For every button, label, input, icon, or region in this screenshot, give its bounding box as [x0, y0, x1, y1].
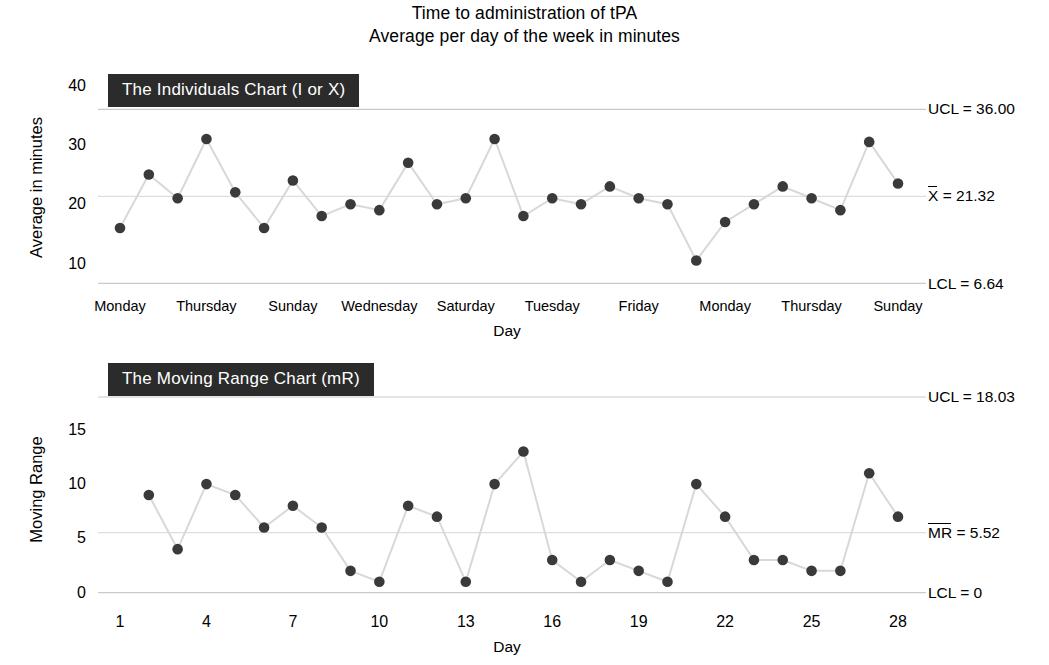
data-point	[259, 522, 270, 533]
control-limit-label-cl: X = 21.32	[928, 187, 995, 205]
x-tick-label: 4	[202, 613, 211, 631]
data-point	[605, 555, 616, 566]
data-point	[547, 555, 558, 566]
data-point	[893, 178, 904, 189]
series-line	[120, 139, 898, 261]
title-line-1: Time to administration of tPA	[0, 2, 1049, 25]
individuals-chart-nameplate: The Individuals Chart (I or X)	[108, 74, 359, 107]
data-point	[403, 157, 414, 168]
data-point	[403, 500, 414, 511]
data-point	[230, 490, 241, 501]
x-tick-label: 13	[457, 613, 475, 631]
chart-page: Time to administration of tPA Average pe…	[0, 0, 1049, 665]
moving-range-series-svg	[98, 380, 916, 605]
x-axis-title-individuals: Day	[98, 322, 916, 340]
x-tick-label: 10	[370, 613, 388, 631]
x-tick-label: Friday	[619, 298, 659, 314]
data-point	[144, 169, 155, 180]
data-point	[633, 193, 644, 204]
data-point	[777, 181, 788, 192]
control-limit-label-ucl: UCL = 18.03	[928, 388, 1015, 406]
data-point	[230, 187, 241, 198]
data-point	[806, 566, 817, 577]
x-tick-label: Monday	[699, 298, 751, 314]
data-point	[432, 511, 443, 522]
data-point	[144, 490, 155, 501]
data-point	[432, 199, 443, 210]
moving-range-chart-nameplate: The Moving Range Chart (mR)	[108, 363, 374, 396]
data-point	[374, 205, 385, 216]
control-limit-label-ucl: UCL = 36.00	[928, 100, 1015, 118]
y-axis-ticks-moving-range: 151050	[42, 380, 86, 605]
data-point	[518, 446, 529, 457]
overline-symbol: MR	[928, 524, 952, 542]
data-point	[720, 511, 731, 522]
overline-symbol: X	[928, 187, 938, 205]
y-tick-label: 20	[68, 195, 86, 213]
control-limit-label-cl: MR = 5.52	[928, 524, 1000, 542]
data-point	[749, 555, 760, 566]
data-point	[374, 576, 385, 587]
individuals-series-svg	[98, 82, 916, 292]
control-limit-label-lcl: LCL = 0	[928, 584, 982, 602]
y-tick-label: 0	[77, 584, 86, 602]
data-point	[806, 193, 817, 204]
data-point	[720, 217, 731, 228]
x-tick-label: Sunday	[268, 298, 317, 314]
data-point	[201, 479, 212, 490]
data-point	[662, 199, 673, 210]
x-tick-label: Monday	[94, 298, 146, 314]
data-point	[172, 544, 183, 555]
data-point	[316, 211, 327, 222]
x-tick-label: Saturday	[437, 298, 495, 314]
x-tick-label: 28	[889, 613, 907, 631]
x-axis-ticks-moving-range: 14710131619222528	[98, 613, 916, 635]
y-tick-label: 10	[68, 255, 86, 273]
x-tick-label: 1	[116, 613, 125, 631]
y-tick-label: 40	[68, 77, 86, 95]
x-tick-label: 19	[630, 613, 648, 631]
data-point	[633, 566, 644, 577]
data-point	[489, 479, 500, 490]
x-axis-ticks-individuals: MondayThursdaySundayWednesdaySaturdayTue…	[98, 298, 916, 320]
x-tick-label: 22	[716, 613, 734, 631]
data-point	[777, 555, 788, 566]
moving-range-chart-panel: Moving Range 151050 The Moving Range Cha…	[0, 355, 1049, 665]
data-point	[460, 193, 471, 204]
data-point	[691, 255, 702, 266]
data-point	[835, 205, 846, 216]
data-point	[864, 468, 875, 479]
x-tick-label: Tuesday	[525, 298, 580, 314]
individuals-plot-area	[98, 82, 916, 292]
data-point	[288, 175, 299, 186]
data-point	[749, 199, 760, 210]
data-point	[893, 511, 904, 522]
title-line-2: Average per day of the week in minutes	[0, 25, 1049, 48]
x-tick-label: 7	[288, 613, 297, 631]
data-point	[547, 193, 558, 204]
x-tick-label: 25	[803, 613, 821, 631]
data-point	[259, 223, 270, 234]
y-tick-label: 5	[77, 529, 86, 547]
control-limit-label-lcl: LCL = 6.64	[928, 275, 1004, 293]
y-tick-label: 10	[68, 475, 86, 493]
data-point	[864, 137, 875, 148]
data-point	[288, 500, 299, 511]
data-point	[576, 576, 587, 587]
data-point	[518, 211, 529, 222]
data-point	[201, 134, 212, 145]
moving-range-plot-area	[98, 380, 916, 605]
y-tick-label: 30	[68, 136, 86, 154]
data-point	[662, 576, 673, 587]
data-point	[576, 199, 587, 210]
x-tick-label: Wednesday	[341, 298, 417, 314]
data-point	[345, 199, 356, 210]
data-point	[691, 479, 702, 490]
data-point	[605, 181, 616, 192]
data-point	[835, 566, 846, 577]
x-tick-label: Thursday	[176, 298, 236, 314]
y-axis-ticks-individuals: 40302010	[42, 82, 86, 292]
data-point	[115, 223, 126, 234]
y-tick-label: 15	[68, 421, 86, 439]
x-tick-label: Sunday	[873, 298, 922, 314]
